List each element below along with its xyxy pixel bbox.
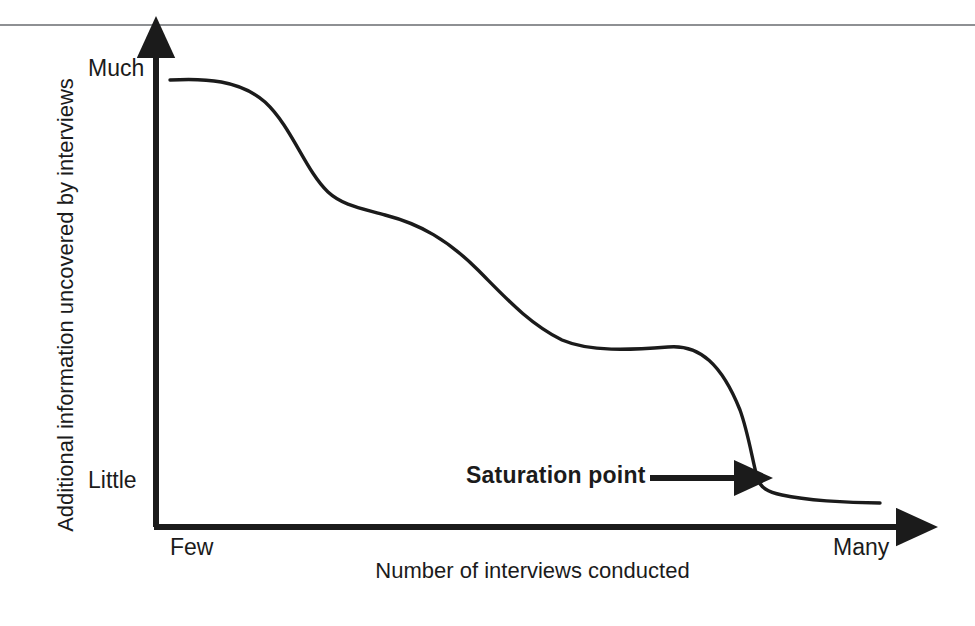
saturation-point-annotation: Saturation point bbox=[466, 462, 646, 489]
figure-container: Additional information uncovered by inte… bbox=[0, 0, 975, 626]
x-tick-label-few: Few bbox=[170, 534, 213, 561]
y-tick-label-much: Much bbox=[88, 55, 144, 82]
y-axis-title: Additional information uncovered by inte… bbox=[53, 45, 79, 565]
x-axis-title: Number of interviews conducted bbox=[155, 558, 910, 584]
x-tick-label-many: Many bbox=[833, 534, 889, 561]
chart-plot-area bbox=[0, 0, 975, 626]
saturation-curve bbox=[170, 79, 880, 503]
y-tick-label-little: Little bbox=[88, 467, 137, 494]
